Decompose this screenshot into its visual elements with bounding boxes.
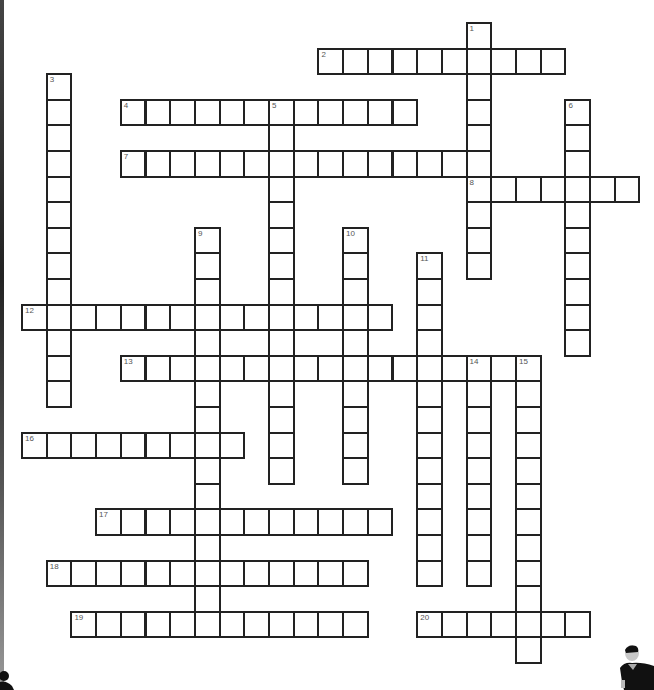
crossword-cell[interactable] (515, 432, 542, 460)
crossword-cell[interactable] (564, 611, 591, 639)
crossword-cell[interactable] (268, 201, 295, 229)
crossword-cell[interactable] (194, 99, 221, 127)
crossword-cell[interactable] (416, 432, 443, 460)
crossword-cell[interactable] (293, 150, 320, 178)
crossword-cell[interactable] (564, 278, 591, 306)
crossword-cell[interactable]: 20 (416, 611, 443, 639)
crossword-cell[interactable]: 8 (466, 176, 493, 204)
crossword-cell[interactable] (392, 48, 419, 76)
crossword-cell[interactable] (120, 611, 147, 639)
crossword-cell[interactable]: 1 (466, 22, 493, 50)
crossword-cell[interactable] (317, 355, 344, 383)
crossword-cell[interactable] (120, 304, 147, 332)
crossword-cell[interactable] (120, 560, 147, 588)
crossword-cell[interactable] (515, 48, 542, 76)
crossword-cell[interactable] (564, 176, 591, 204)
crossword-cell[interactable] (169, 432, 196, 460)
crossword-cell[interactable] (194, 355, 221, 383)
crossword-cell[interactable] (564, 304, 591, 332)
crossword-cell[interactable] (416, 406, 443, 434)
crossword-cell[interactable] (46, 304, 73, 332)
crossword-cell[interactable] (466, 150, 493, 178)
crossword-cell[interactable] (120, 432, 147, 460)
crossword-cell[interactable] (441, 48, 468, 76)
crossword-cell[interactable] (614, 176, 641, 204)
crossword-cell[interactable] (219, 432, 246, 460)
crossword-cell[interactable] (490, 176, 517, 204)
crossword-cell[interactable] (416, 534, 443, 562)
crossword-cell[interactable] (268, 560, 295, 588)
crossword-cell[interactable]: 7 (120, 150, 147, 178)
crossword-cell[interactable] (145, 355, 172, 383)
crossword-cell[interactable] (169, 611, 196, 639)
crossword-cell[interactable] (219, 611, 246, 639)
crossword-cell[interactable] (416, 560, 443, 588)
crossword-cell[interactable] (194, 483, 221, 511)
crossword-cell[interactable] (416, 355, 443, 383)
crossword-cell[interactable]: 11 (416, 252, 443, 280)
crossword-cell[interactable] (466, 227, 493, 255)
crossword-cell[interactable]: 19 (70, 611, 97, 639)
crossword-cell[interactable] (589, 176, 616, 204)
crossword-cell[interactable] (342, 304, 369, 332)
crossword-cell[interactable] (194, 150, 221, 178)
crossword-cell[interactable] (169, 99, 196, 127)
crossword-cell[interactable] (95, 432, 122, 460)
crossword-cell[interactable]: 4 (120, 99, 147, 127)
crossword-cell[interactable] (416, 304, 443, 332)
crossword-cell[interactable] (243, 99, 270, 127)
crossword-cell[interactable] (268, 304, 295, 332)
crossword-cell[interactable] (515, 585, 542, 613)
crossword-cell[interactable] (466, 534, 493, 562)
crossword-cell[interactable] (268, 227, 295, 255)
crossword-cell[interactable] (268, 432, 295, 460)
crossword-cell[interactable] (145, 99, 172, 127)
crossword-cell[interactable] (564, 201, 591, 229)
crossword-cell[interactable] (70, 432, 97, 460)
crossword-cell[interactable] (416, 483, 443, 511)
crossword-cell[interactable]: 16 (21, 432, 48, 460)
crossword-cell[interactable] (515, 534, 542, 562)
crossword-cell[interactable] (466, 457, 493, 485)
crossword-cell[interactable] (219, 508, 246, 536)
crossword-cell[interactable] (416, 150, 443, 178)
crossword-cell[interactable] (145, 304, 172, 332)
crossword-cell[interactable] (490, 355, 517, 383)
crossword-cell[interactable] (367, 48, 394, 76)
crossword-cell[interactable] (46, 227, 73, 255)
crossword-cell[interactable] (293, 508, 320, 536)
crossword-cell[interactable] (194, 585, 221, 613)
crossword-cell[interactable] (145, 150, 172, 178)
crossword-cell[interactable] (293, 304, 320, 332)
crossword-cell[interactable] (392, 355, 419, 383)
crossword-cell[interactable]: 12 (21, 304, 48, 332)
crossword-cell[interactable] (46, 380, 73, 408)
crossword-cell[interactable] (466, 560, 493, 588)
crossword-cell[interactable] (145, 611, 172, 639)
crossword-cell[interactable] (46, 278, 73, 306)
crossword-cell[interactable] (46, 355, 73, 383)
crossword-cell[interactable] (46, 432, 73, 460)
crossword-cell[interactable] (515, 560, 542, 588)
crossword-cell[interactable] (342, 406, 369, 434)
crossword-cell[interactable] (367, 355, 394, 383)
crossword-cell[interactable] (317, 508, 344, 536)
crossword-cell[interactable] (416, 48, 443, 76)
crossword-cell[interactable] (194, 611, 221, 639)
crossword-cell[interactable] (194, 457, 221, 485)
crossword-cell[interactable] (342, 560, 369, 588)
crossword-cell[interactable] (441, 150, 468, 178)
crossword-cell[interactable] (219, 304, 246, 332)
crossword-cell[interactable] (515, 483, 542, 511)
crossword-cell[interactable] (564, 252, 591, 280)
crossword-cell[interactable] (515, 406, 542, 434)
crossword-cell[interactable] (46, 150, 73, 178)
crossword-cell[interactable] (515, 611, 542, 639)
crossword-cell[interactable]: 9 (194, 227, 221, 255)
crossword-cell[interactable] (219, 560, 246, 588)
crossword-cell[interactable] (145, 560, 172, 588)
crossword-cell[interactable] (268, 124, 295, 152)
crossword-cell[interactable] (466, 432, 493, 460)
crossword-cell[interactable] (243, 150, 270, 178)
crossword-cell[interactable] (194, 432, 221, 460)
